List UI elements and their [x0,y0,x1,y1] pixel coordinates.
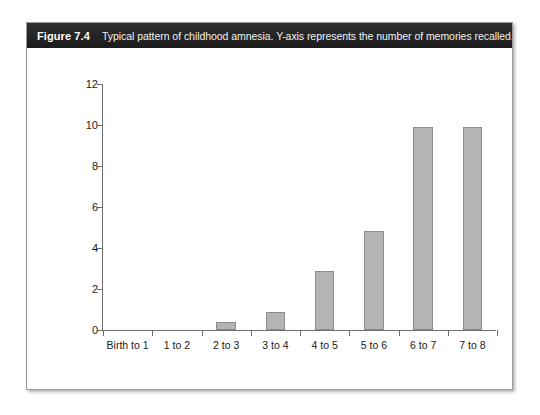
x-tick-mark [300,330,301,336]
x-axis-label: Birth to 1 [107,339,149,351]
x-tick-mark [448,330,449,336]
chart-plot-region: 024681012 Birth to 11 to 22 to 33 to 44 … [27,48,512,389]
x-axis-label: 3 to 4 [262,339,288,351]
y-tick-label: 4 [92,242,98,254]
bar [315,271,335,330]
bar [216,322,236,330]
figure-container: Figure 7.4 Typical pattern of childhood … [26,22,513,390]
x-tick-mark [103,330,104,336]
bar [463,127,483,330]
x-tick-mark [399,330,400,336]
x-axis-label: 1 to 2 [164,339,190,351]
x-tick-mark [497,330,498,336]
bar [364,231,384,330]
figure-caption-text: Typical pattern of childhood amnesia. Y-… [102,30,512,42]
y-tick-label: 2 [92,283,98,295]
y-tick-label: 8 [92,160,98,172]
x-axis-label: 4 to 5 [311,339,337,351]
x-axis-label: 2 to 3 [213,339,239,351]
y-tick-label: 6 [92,201,98,213]
x-tick-mark [152,330,153,336]
y-tick-label: 12 [86,78,98,90]
x-axis-label: 7 to 8 [459,339,485,351]
x-axis-label: 6 to 7 [410,339,436,351]
figure-caption-bar: Figure 7.4 Typical pattern of childhood … [27,23,512,48]
y-tick-label: 0 [92,324,98,336]
chart-axes: 024681012 Birth to 11 to 22 to 33 to 44 … [103,84,497,330]
bar [413,127,433,330]
bar [266,312,286,330]
x-tick-mark [251,330,252,336]
figure-number-label: Figure 7.4 [37,30,90,42]
y-tick-label: 10 [86,119,98,131]
x-axis-line [102,330,496,331]
x-tick-mark [349,330,350,336]
x-axis-label: 5 to 6 [361,339,387,351]
x-tick-mark [202,330,203,336]
